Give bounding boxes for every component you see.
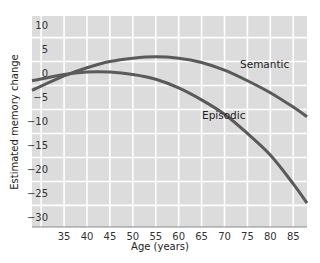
y-tick-label: −10 — [27, 116, 48, 127]
y-tick-label: −15 — [27, 140, 48, 151]
series-label-episodic: Episodic — [202, 109, 246, 121]
y-tick-label: 5 — [42, 44, 48, 55]
y-tick-label: −20 — [27, 164, 48, 175]
x-tick-label: 75 — [241, 231, 254, 242]
memory-change-chart: 1050−5−10−15−20−25−30 354045505560657075… — [0, 0, 320, 263]
y-axis-label: Estimated memory change — [9, 54, 20, 189]
x-tick-label: 35 — [58, 231, 71, 242]
y-tick-label: 10 — [35, 20, 48, 31]
series-label-semantic: Semantic — [240, 58, 289, 70]
plot-area — [32, 16, 307, 227]
y-tick-label: −30 — [27, 212, 48, 223]
y-tick-label: −5 — [33, 92, 48, 103]
x-tick-label: 70 — [218, 231, 231, 242]
x-tick-label: 80 — [264, 231, 277, 242]
y-tick-label: −25 — [27, 188, 48, 199]
x-tick-label: 45 — [104, 231, 117, 242]
x-axis-label: Age (years) — [131, 241, 189, 252]
x-tick-label: 65 — [195, 231, 208, 242]
x-tick-label: 40 — [81, 231, 94, 242]
x-tick-label: 85 — [287, 231, 300, 242]
